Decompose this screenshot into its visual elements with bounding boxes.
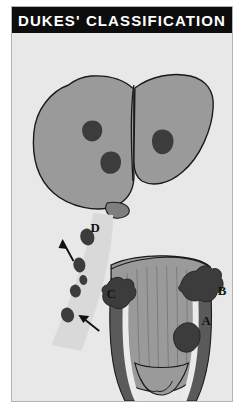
dukes-classification-figure: DUKES' CLASSIFICATION — [0, 0, 245, 413]
label-d: D — [91, 220, 100, 235]
anatomy-illustration: D C B A — [12, 33, 232, 402]
liver-right-lobe — [134, 75, 213, 185]
liver-group — [33, 75, 213, 219]
illustration-canvas: D C B A — [12, 33, 232, 402]
liver-left-lobe — [33, 76, 133, 209]
figure-title-bar: DUKES' CLASSIFICATION — [12, 7, 232, 33]
arrow-to-lymph-node-d — [59, 239, 74, 261]
label-c: C — [106, 286, 115, 301]
figure-panel: DUKES' CLASSIFICATION — [11, 6, 233, 402]
rectum-group — [102, 256, 223, 401]
label-b: B — [218, 283, 227, 298]
label-a: A — [202, 313, 212, 328]
figure-title: DUKES' CLASSIFICATION — [18, 12, 226, 29]
